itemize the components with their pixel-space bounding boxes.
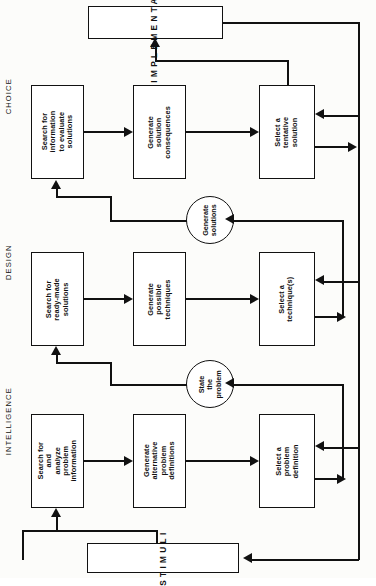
line-into-c1	[56, 188, 58, 197]
phase-label-choice: CHOICE	[0, 92, 32, 138]
line-generate-solutions-left	[110, 220, 187, 222]
arrow-c2-to-c3	[250, 127, 259, 137]
line-rail-to-generate-solutions	[234, 220, 343, 222]
line-i2-to-i3	[186, 460, 250, 462]
process-box-i2-label: Generate alternative problem definitions	[143, 442, 176, 480]
line-generate-solutions-up	[110, 196, 112, 221]
arrow-into-implementation	[150, 38, 160, 47]
line-stimuli-up-left	[22, 530, 24, 560]
process-box-d2-label: Generate possible techniques	[147, 279, 172, 319]
line-state-problem-to-d1	[56, 362, 111, 364]
process-box-d2: Generate possible techniques	[133, 252, 186, 346]
line-i1-to-i2	[84, 460, 124, 462]
process-box-c1: Search for information to evaluate solut…	[31, 85, 84, 179]
line-c2-to-c3	[186, 131, 250, 133]
arrow-feedback-into-i3	[315, 441, 324, 451]
process-box-i1: Search for and analyze problem informati…	[31, 414, 84, 508]
line-c3-up-stub	[287, 60, 289, 86]
process-box-i1-label: Search for and analyze problem informati…	[37, 436, 78, 487]
line-into-i1	[56, 516, 58, 531]
line-rail-to-stimuli	[252, 559, 359, 561]
arrow-into-generate-solutions	[225, 214, 234, 224]
arrow-feedback-into-d3	[315, 275, 324, 285]
rail-right-inner-lower	[342, 384, 344, 479]
arrow-i2-to-i3	[250, 456, 259, 466]
process-box-d3-label: Select a technique(s)	[279, 276, 296, 321]
line-d1-to-d2	[84, 298, 124, 300]
arrow-c1-to-c2	[124, 127, 133, 137]
line-c3-to-implementation-horizontal	[155, 60, 288, 62]
arrow-into-i1	[51, 508, 61, 517]
arrow-d1-to-d2	[124, 294, 133, 304]
rail-right-inner-upper	[342, 220, 344, 317]
phase-label-intelligence-text: INTELLIGENCE	[5, 393, 14, 455]
connector-oval-generate-solutions-label: Generate solutions	[202, 204, 219, 236]
line-stimuli-branch-down	[156, 530, 158, 544]
process-box-c3: Select a tentative solution	[259, 85, 315, 179]
line-state-problem-left	[110, 384, 187, 386]
line-c1-to-c2	[84, 131, 124, 133]
arrow-feedback-into-c3	[315, 109, 324, 119]
line-d2-to-d3	[186, 298, 250, 300]
line-stimuli-left	[22, 530, 157, 532]
line-feedback-into-c3	[324, 115, 359, 117]
line-feedback-into-i3	[324, 447, 359, 449]
arrow-c3-out-to-rail	[348, 142, 357, 152]
terminal-box-implementation: IMPLEMENTATION	[88, 6, 223, 39]
arrow-i1-to-i2	[124, 456, 133, 466]
process-box-d1: Search for ready-made solutions	[31, 252, 84, 346]
process-box-i3: Select a problem definition	[259, 414, 315, 508]
process-box-d1-label: Search for ready-made solutions	[45, 278, 70, 321]
line-state-problem-up	[110, 362, 112, 385]
phase-label-choice-text: CHOICE	[5, 73, 14, 119]
process-box-i2: Generate alternative problem definitions	[133, 414, 186, 508]
process-box-c3-label: Select a tentative solution	[275, 116, 300, 147]
line-generate-solutions-to-c1	[56, 196, 111, 198]
process-box-c2: Generate solution consequences	[133, 85, 186, 179]
process-box-i3-label: Select a problem definition	[275, 444, 300, 478]
arrow-into-state-problem	[225, 378, 234, 388]
process-box-d3: Select a technique(s)	[259, 252, 315, 346]
arrow-d2-to-d3	[250, 294, 259, 304]
terminal-label-stimuli: STIMULI	[158, 530, 167, 586]
line-rail-to-state-problem	[234, 384, 343, 386]
arrow-into-c1	[51, 180, 61, 189]
terminal-box-stimuli: STIMULI	[87, 543, 239, 573]
line-implementation-right-tail	[223, 22, 359, 24]
line-implementation-entry	[155, 46, 157, 61]
line-into-d1	[56, 354, 58, 363]
arrow-into-stimuli	[243, 553, 252, 563]
phase-label-design-text: DESIGN	[5, 239, 14, 285]
line-c3-out-to-rail	[315, 146, 350, 148]
rail-right-outer	[358, 22, 360, 560]
process-box-c1-label: Search for information to evaluate solut…	[41, 111, 74, 153]
connector-oval-state-the-problem-label: State the problem	[198, 370, 223, 398]
arrow-into-d1	[51, 346, 61, 355]
process-box-c2-label: Generate solution consequences	[147, 106, 172, 159]
line-feedback-into-d3	[324, 281, 359, 283]
phase-label-design: DESIGN	[0, 258, 32, 304]
